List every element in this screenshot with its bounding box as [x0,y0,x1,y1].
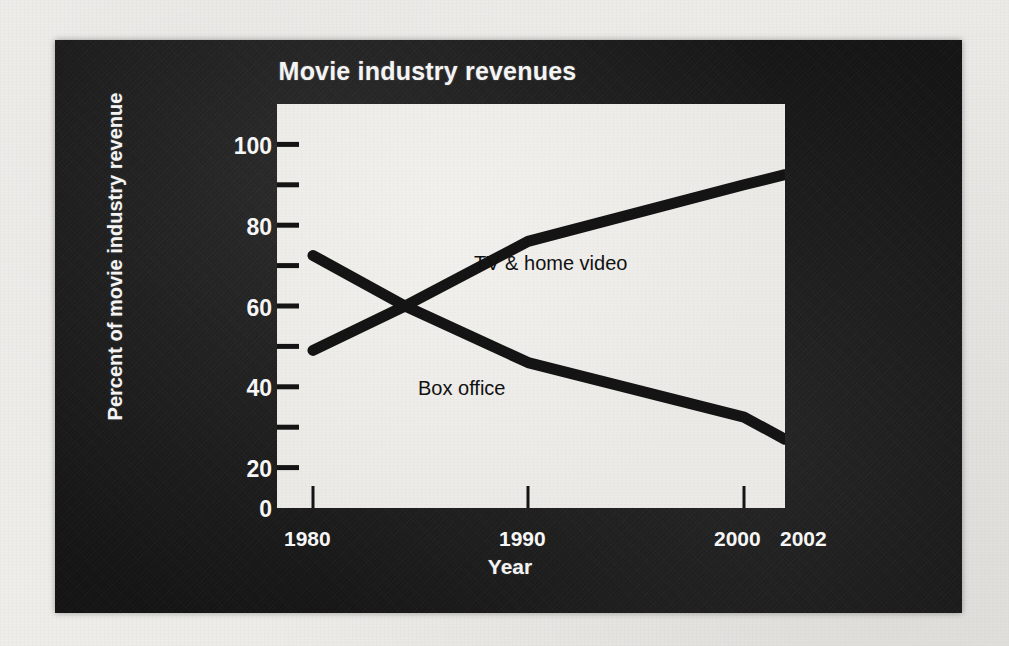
x-tick-1990: 1990 [499,527,546,551]
chart-plot-svg [277,104,785,508]
y-axis-ticks [277,144,299,467]
series-label-tv-home-video: TV & home video [474,252,627,275]
y-tick-80: 80 [202,214,272,241]
y-tick-100: 100 [202,133,272,160]
scanned-page: Movie industry revenues Percent of movie… [0,0,1009,646]
y-tick-0: 0 [202,496,272,523]
x-axis-ticks [313,486,744,508]
x-tick-1980: 1980 [284,527,331,551]
x-tick-2002: 2002 [780,527,827,551]
plot-area: TV & home video Box office [277,104,785,508]
x-axis-label: Year [410,555,610,579]
y-tick-40: 40 [202,375,272,402]
y-tick-20: 20 [202,456,272,483]
series-line-box-office [313,256,785,440]
figure-panel: Movie industry revenues Percent of movie… [55,40,962,613]
chart-title: Movie industry revenues [55,57,800,86]
y-tick-60: 60 [202,295,272,322]
y-axis-label: Percent of movie industry revenue [104,57,127,457]
x-tick-2000: 2000 [714,527,761,551]
y-axis-tick-labels: 100 80 60 40 20 0 [200,40,272,613]
series-label-box-office: Box office [418,377,505,400]
